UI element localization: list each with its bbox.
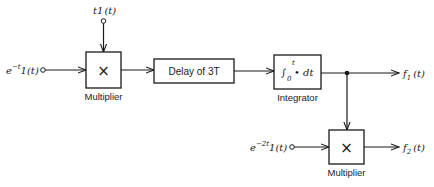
multiply-icon: × bbox=[340, 139, 353, 157]
input-t1: t1(t) bbox=[93, 5, 116, 52]
input-e-t: e−t1(t) bbox=[6, 63, 86, 76]
multiplier-block-2: × Multiplier bbox=[327, 130, 365, 178]
input-terminal-icon bbox=[41, 68, 46, 73]
integrand: • dt bbox=[294, 67, 314, 78]
input-terminal-icon bbox=[290, 145, 295, 150]
input-terminal-icon bbox=[101, 19, 106, 24]
multiply-icon: × bbox=[97, 62, 110, 80]
upper-limit: t bbox=[292, 59, 295, 67]
output-f1-label: f1(t) bbox=[402, 68, 425, 82]
lower-limit: 0 bbox=[287, 75, 292, 83]
input-e-2t: e−2t1(t) bbox=[250, 140, 329, 153]
integral-icon: ∫ bbox=[281, 67, 286, 78]
input-t1-label: t1(t) bbox=[93, 5, 116, 16]
delay-block: Delay of 3T bbox=[154, 59, 234, 83]
input-e-2t-label: e−2t1(t) bbox=[250, 140, 287, 153]
integrator-block: ∫ t 0 • dt Integrator bbox=[274, 55, 321, 103]
integrator-caption: Integrator bbox=[277, 92, 318, 103]
delay-label: Delay of 3T bbox=[168, 66, 219, 77]
multiplier-caption: Multiplier bbox=[327, 167, 365, 178]
block-diagram: t1(t) e−t1(t) × Multiplier Delay of 3T ∫… bbox=[0, 0, 434, 187]
multiplier-block-1: × Multiplier bbox=[84, 52, 122, 102]
output-f2-label: f2(t) bbox=[402, 142, 425, 156]
input-e-t-label: e−t1(t) bbox=[6, 63, 39, 76]
multiplier-caption: Multiplier bbox=[84, 91, 122, 102]
